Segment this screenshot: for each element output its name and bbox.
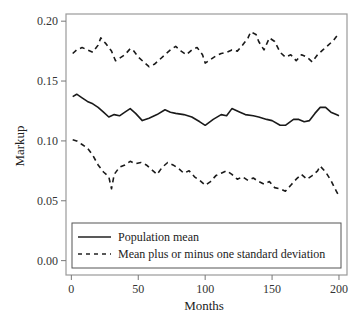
y-axis-title: Markup	[12, 125, 27, 166]
legend-box	[72, 223, 341, 268]
x-tick-label: 0	[68, 282, 74, 296]
x-tick-label: 50	[132, 282, 144, 296]
x-tick-label: 200	[330, 282, 348, 296]
y-tick-label: 0.20	[37, 14, 58, 28]
y-tick-label: 0.15	[37, 74, 58, 88]
legend-label-population-mean: Population mean	[118, 230, 199, 244]
legend: Population mean Mean plus or minus one s…	[72, 223, 341, 268]
x-tick-label: 100	[196, 282, 214, 296]
x-axis: 050100150200	[68, 275, 348, 296]
markup-line-chart: 0.000.050.100.150.20 050100150200 Markup…	[0, 0, 364, 317]
y-tick-label: 0.05	[37, 194, 58, 208]
y-axis: 0.000.050.100.150.20	[37, 14, 66, 267]
y-tick-label: 0.00	[37, 254, 58, 268]
x-axis-title: Months	[184, 298, 224, 313]
y-tick-label: 0.10	[37, 134, 58, 148]
legend-label-std-band: Mean plus or minus one standard deviatio…	[118, 247, 325, 261]
x-tick-label: 150	[263, 282, 281, 296]
